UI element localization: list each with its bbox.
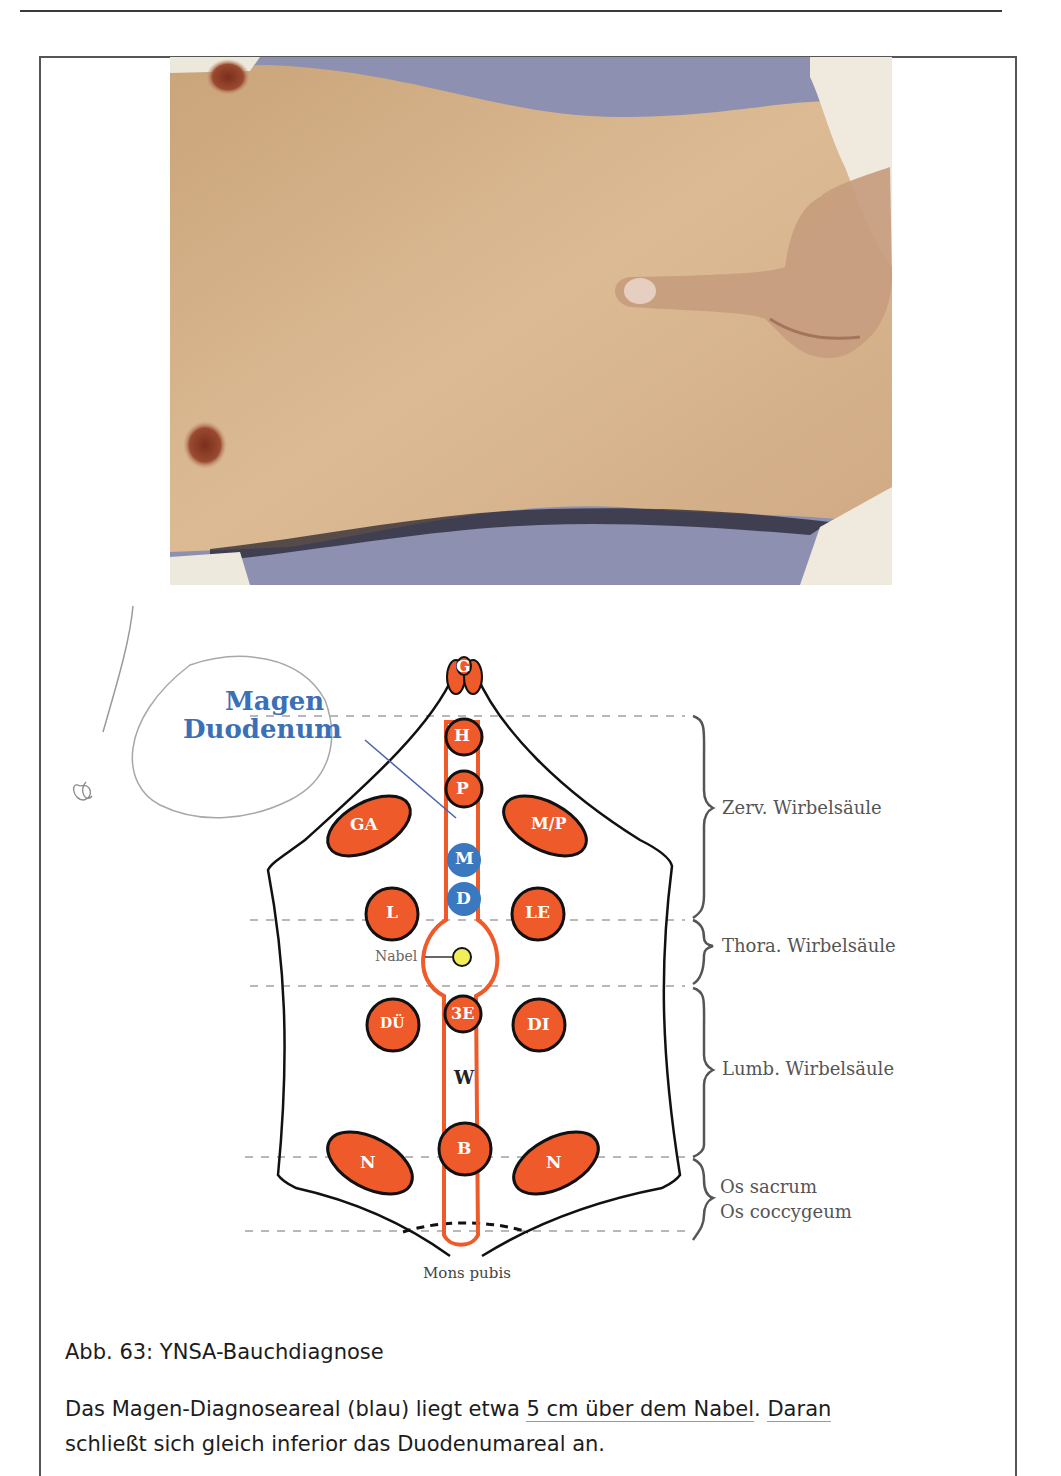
spine-label-cervical: Zerv. Wirbelsäule xyxy=(722,797,882,818)
spine-label-sacrum: Os sacrum xyxy=(720,1176,817,1197)
mons-pubis-label: Mons pubis xyxy=(423,1264,511,1282)
ynsa-abdomen-diagram: Magen Duodenum G H P GA M/P M D L LE 3E … xyxy=(0,590,1061,1290)
figure-caption: Abb. 63: YNSA-Bauchdiagnose xyxy=(65,1340,384,1364)
annotation-magen: Magen xyxy=(225,686,324,716)
navel-label: Nabel xyxy=(375,948,417,964)
point-label-d: D xyxy=(456,888,471,908)
point-label-du: DÜ xyxy=(380,1015,404,1031)
point-label-p: P xyxy=(456,778,469,798)
point-label-l: L xyxy=(386,902,398,922)
annotation-duodenum: Duodenum xyxy=(183,714,342,744)
header-rule xyxy=(20,10,1002,12)
point-label-h: H xyxy=(454,725,470,745)
point-label-mp: M/P xyxy=(531,814,567,833)
body-text-segment: Das Magen-Diagnoseareal (blau) liegt etw… xyxy=(65,1397,526,1421)
spine-label-thoracic: Thora. Wirbelsäule xyxy=(722,935,896,956)
point-label-g: G xyxy=(456,656,471,676)
point-label-le: LE xyxy=(525,902,550,922)
point-label-di: DI xyxy=(527,1014,550,1034)
point-label-ga: GA xyxy=(350,814,378,834)
point-label-b: B xyxy=(457,1138,471,1158)
spine-label-lumbar: Lumb. Wirbelsäule xyxy=(722,1058,894,1079)
body-text-line2: schließt sich gleich inferior das Duoden… xyxy=(65,1432,605,1456)
point-label-w: W xyxy=(454,1067,474,1088)
body-paragraph: Das Magen-Diagnoseareal (blau) liegt etw… xyxy=(65,1392,965,1462)
body-text-segment: . xyxy=(754,1397,767,1421)
point-label-m: M xyxy=(455,848,474,868)
point-label-n-left: N xyxy=(360,1152,376,1172)
handwritten-underline-daran: Daran xyxy=(767,1397,831,1422)
handwritten-underline-distance: 5 cm über dem Nabel xyxy=(526,1397,754,1422)
point-label-3e: 3E xyxy=(451,1004,474,1023)
spine-label-coccyx: Os coccygeum xyxy=(720,1201,852,1222)
abdomen-photo xyxy=(170,57,892,585)
point-label-n-right: N xyxy=(546,1152,562,1172)
